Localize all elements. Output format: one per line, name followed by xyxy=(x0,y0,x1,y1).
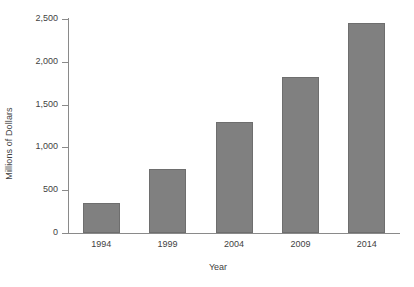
y-tick-label: 500 xyxy=(14,185,58,194)
y-axis-line xyxy=(68,18,69,234)
bar xyxy=(216,122,253,233)
y-tick-mark xyxy=(62,105,68,106)
y-tick-mark xyxy=(62,233,68,234)
y-tick-label: 1,500 xyxy=(14,100,58,109)
y-tick-label: 1,000 xyxy=(14,142,58,151)
y-tick-mark xyxy=(62,147,68,148)
bar xyxy=(282,77,319,233)
y-tick-label: 2,500 xyxy=(14,14,58,23)
y-tick-label: 2,000 xyxy=(14,57,58,66)
x-axis-line xyxy=(68,233,400,234)
x-tick-label: 2004 xyxy=(204,240,264,249)
x-tick-label: 1994 xyxy=(71,240,131,249)
x-tick-label: 2009 xyxy=(270,240,330,249)
bar-chart: Millions of Dollars 05001,0001,5002,0002… xyxy=(0,0,414,287)
y-tick-mark xyxy=(62,62,68,63)
y-tick-mark xyxy=(62,19,68,20)
bar xyxy=(149,169,186,233)
bar xyxy=(348,23,385,233)
x-tick-label: 2014 xyxy=(337,240,397,249)
y-tick-mark xyxy=(62,190,68,191)
y-tick-label: 0 xyxy=(14,228,58,237)
bar xyxy=(83,203,120,233)
x-axis-title: Year xyxy=(68,263,368,272)
x-tick-label: 1999 xyxy=(138,240,198,249)
